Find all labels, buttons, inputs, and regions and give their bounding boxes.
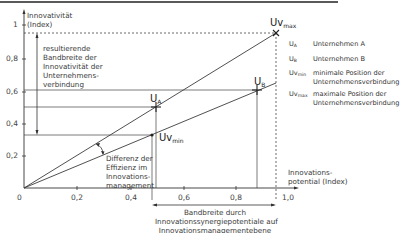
y-tick-0-6: 0,6 <box>6 87 18 96</box>
annotation-synergy-bandwidth: Bandbreite durch Innovationssynergiepote… <box>155 208 275 233</box>
point-label-uvmax: Uvmax <box>270 17 296 29</box>
legend-item-ub: UBUnternehmen B <box>289 55 399 66</box>
diagram-canvas <box>0 0 409 233</box>
x-tick-0-2: 0,2 <box>71 193 83 202</box>
x-tick-0-6: 0,6 <box>178 193 190 202</box>
y-tick-1: 1 <box>13 20 18 29</box>
x-axis-label: Innovations- potential (Index) <box>288 168 348 186</box>
y-axis-arrow <box>23 9 26 14</box>
y-axis-label: Innovativität (Index) <box>27 11 72 29</box>
point-label-uvmin: Uvmin <box>159 132 184 144</box>
x-tick-0-4: 0,4 <box>125 193 137 202</box>
x-tick-1-0: 1,0 <box>282 193 294 202</box>
legend-item-uvmin: Uvminminimale Position der Unternehmensv… <box>289 69 399 86</box>
legend-item-uvmax: Uvmaxmaximale Position der Unternehmensv… <box>289 90 399 107</box>
annotation-innovativity-bandwidth: resultierende Bandbreite der Innovativit… <box>43 44 103 89</box>
point-label-ub: UB <box>254 76 265 88</box>
legend: UAUnternehmen A UBUnternehmen B Uvminmin… <box>289 40 399 112</box>
x-tick-0-8: 0,8 <box>230 193 242 202</box>
y-tick-0-8: 0,8 <box>6 54 18 63</box>
y-tick-0-4: 0,4 <box>6 119 18 128</box>
x-axis-arrow <box>294 187 299 190</box>
legend-item-ua: UAUnternehmen A <box>289 40 399 51</box>
annotation-efficiency-difference: Differenz der Effizienz im Innovations- … <box>106 154 154 190</box>
x-tick-0: 0 <box>17 193 22 202</box>
y-tick-0-2: 0,2 <box>6 151 18 160</box>
point-label-ua: UA <box>150 93 161 105</box>
